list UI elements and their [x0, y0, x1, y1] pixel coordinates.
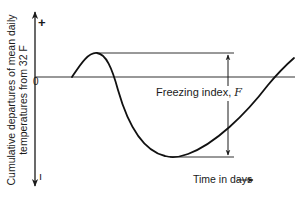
plus-label: +	[38, 15, 46, 30]
y-axis-label: Cumulative departures of mean daily temp…	[5, 14, 29, 185]
minus-label: ı	[39, 170, 42, 182]
freezing-index-symbol: F	[234, 86, 242, 99]
temperature-curve	[72, 53, 294, 157]
y-axis-label-line1: Cumulative departures of mean daily	[5, 14, 17, 185]
x-axis-label: Time in days	[193, 173, 252, 185]
zero-label: 0	[33, 76, 39, 87]
y-axis-label-line2: temperatures from 32 F	[17, 14, 29, 185]
freezing-index-label: Freezing index, F	[156, 86, 242, 99]
freezing-index-diagram	[0, 0, 307, 197]
freezing-index-text: Freezing index,	[156, 86, 231, 98]
